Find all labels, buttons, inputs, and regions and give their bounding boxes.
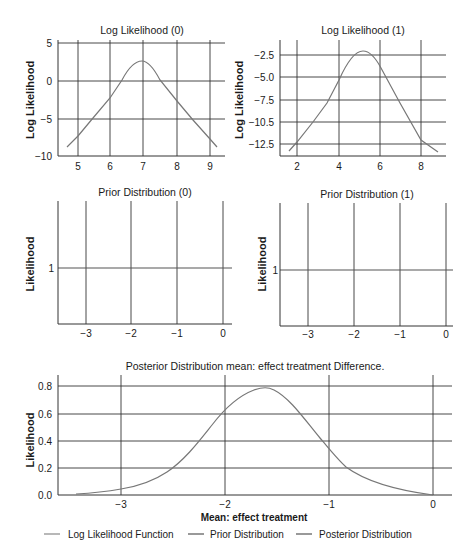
y-tick: 0.0 bbox=[38, 490, 52, 501]
y-tick: −10.5 bbox=[249, 117, 275, 128]
x-tick: 0 bbox=[430, 499, 436, 510]
x-axis-label: Mean: effect treatment bbox=[201, 512, 308, 523]
x-tick: 7 bbox=[140, 161, 146, 172]
x-tick: 9 bbox=[207, 161, 213, 172]
x-tick: 6 bbox=[377, 161, 383, 172]
x-tick: −3 bbox=[302, 329, 314, 340]
x-tick: 0 bbox=[443, 329, 449, 340]
y-tick: −5.0 bbox=[254, 72, 274, 83]
y-tick: 0.8 bbox=[38, 381, 52, 392]
log-likelihood-curve bbox=[67, 61, 217, 147]
y-tick: −10 bbox=[35, 151, 52, 162]
y-tick: 0.2 bbox=[38, 463, 52, 474]
y-tick: −12.5 bbox=[249, 139, 275, 150]
x-tick: 5 bbox=[75, 161, 81, 172]
chart-title: Prior Distribution (0) bbox=[98, 186, 191, 198]
x-tick: −3 bbox=[115, 499, 127, 510]
y-tick: −2.5 bbox=[254, 50, 274, 61]
legend-label: Posterior Distribution bbox=[319, 529, 412, 540]
log-likelihood-curve bbox=[289, 51, 438, 152]
chart-prior-distribution-1: Prior Distribution (1) 1 −3 −2 −1 0 Like… bbox=[256, 188, 453, 340]
x-tick: 2 bbox=[294, 161, 300, 172]
x-tick: −2 bbox=[125, 328, 137, 339]
chart-log-likelihood-1: Log Likelihood (1) −2.5 −5.0 −7.5 −10.5 … bbox=[233, 24, 446, 172]
x-tick: −1 bbox=[323, 499, 335, 510]
y-axis-label: Log Likelihood bbox=[24, 61, 36, 139]
x-tick: −2 bbox=[219, 499, 231, 510]
chart-title: Posterior Distribution mean: effect trea… bbox=[126, 360, 385, 372]
y-tick: 1 bbox=[48, 263, 54, 274]
x-tick: 4 bbox=[336, 161, 342, 172]
x-tick: 8 bbox=[418, 161, 424, 172]
x-tick: 0 bbox=[220, 328, 226, 339]
x-tick: 8 bbox=[174, 161, 180, 172]
y-tick: −5 bbox=[41, 114, 53, 125]
y-axis-label: Likelihood bbox=[256, 237, 268, 292]
y-tick: 0.6 bbox=[38, 409, 52, 420]
chart-posterior-distribution: Posterior Distribution mean: effect trea… bbox=[24, 360, 452, 523]
y-tick: 5 bbox=[46, 38, 52, 49]
chart-prior-distribution-0: Prior Distribution (0) 1 −3 −2 −1 0 Like… bbox=[24, 186, 232, 339]
chart-title: Log Likelihood (0) bbox=[100, 24, 183, 36]
x-tick: −1 bbox=[394, 329, 406, 340]
x-tick: −1 bbox=[171, 328, 183, 339]
legend-label: Log Likelihood Function bbox=[68, 529, 174, 540]
y-axis-label: Likelihood bbox=[24, 413, 36, 468]
chart-title: Log Likelihood (1) bbox=[321, 24, 404, 36]
y-axis-label: Log Likelihood bbox=[233, 61, 245, 139]
figure: Log Likelihood (0) 5 0 −5 −10 5 6 7 8 9 … bbox=[0, 0, 471, 556]
x-tick: 6 bbox=[107, 161, 113, 172]
y-tick: 0 bbox=[46, 76, 52, 87]
legend: Log Likelihood Function Prior Distributi… bbox=[44, 529, 412, 540]
x-tick: −2 bbox=[348, 329, 360, 340]
y-axis-label: Likelihood bbox=[24, 237, 36, 292]
y-tick: 1 bbox=[272, 265, 278, 276]
y-tick: −7.5 bbox=[254, 95, 274, 106]
y-tick: 0.4 bbox=[38, 436, 52, 447]
legend-label: Prior Distribution bbox=[210, 529, 284, 540]
x-tick: −3 bbox=[80, 328, 92, 339]
chart-log-likelihood-0: Log Likelihood (0) 5 0 −5 −10 5 6 7 8 9 … bbox=[24, 24, 225, 172]
chart-title: Prior Distribution (1) bbox=[320, 188, 413, 200]
